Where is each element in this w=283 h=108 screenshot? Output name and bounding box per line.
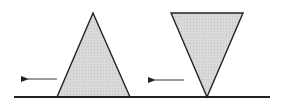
diagram-canvas [0, 0, 283, 108]
inverted-triangle [171, 13, 243, 97]
diagram-svg [0, 0, 283, 108]
upright-triangle [57, 13, 130, 97]
